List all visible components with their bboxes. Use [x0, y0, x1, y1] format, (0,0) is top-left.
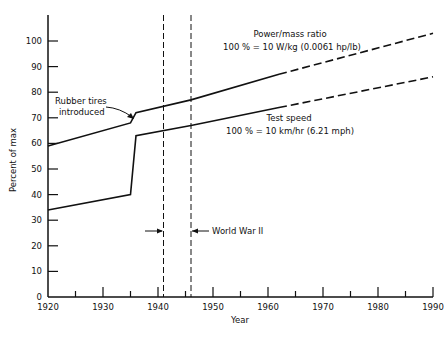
arrowhead-icon — [192, 229, 198, 234]
x-tick-label: 1930 — [92, 302, 114, 312]
speed-label-1: Test speed — [265, 113, 311, 123]
x-tick-label: 1990 — [422, 302, 444, 312]
y-ticks: 0102030405060708090100 — [26, 36, 58, 302]
y-tick-label: 100 — [26, 36, 42, 46]
power-label-2: 100 % = 10 W/kg (0.0061 hp/lb) — [223, 42, 361, 52]
y-tick-label: 10 — [31, 266, 42, 276]
x-axis-label: Year — [230, 315, 250, 325]
x-tick-label: 1970 — [312, 302, 334, 312]
rubber-tires-arrow — [106, 107, 132, 117]
speed-label-2: 100 % = 10 km/hr (6.21 mph) — [226, 126, 354, 136]
x-ticks: 19201930194019501960197019801990 — [37, 287, 444, 312]
arrowhead-icon — [157, 229, 163, 234]
y-tick-label: 90 — [31, 62, 42, 72]
rubber-tires-label-2: introduced — [59, 107, 105, 117]
series-lines — [48, 33, 433, 210]
x-tick-label: 1940 — [147, 302, 169, 312]
series-line-dashed — [279, 33, 433, 74]
y-tick-label: 20 — [31, 241, 42, 251]
y-tick-label: 80 — [31, 87, 42, 97]
rubber-tires-label-1: Rubber tires — [55, 96, 107, 106]
y-tick-label: 60 — [31, 138, 42, 148]
y-tick-label: 70 — [31, 113, 42, 123]
x-tick-label: 1920 — [37, 302, 59, 312]
series-line-solid — [48, 108, 279, 210]
ww2-label: World War II — [212, 226, 263, 236]
power-label-1: Power/mass ratio — [253, 29, 326, 39]
series-line-dashed — [279, 77, 433, 108]
y-tick-label: 50 — [31, 164, 42, 174]
y-tick-label: 30 — [31, 215, 42, 225]
y-tick-label: 0 — [37, 292, 42, 302]
y-tick-label: 40 — [31, 190, 42, 200]
chart: 0102030405060708090100 19201930194019501… — [0, 0, 444, 337]
x-tick-label: 1960 — [257, 302, 279, 312]
y-axis-label: Percent of max — [8, 128, 18, 192]
x-tick-label: 1950 — [202, 302, 224, 312]
x-tick-label: 1980 — [367, 302, 389, 312]
